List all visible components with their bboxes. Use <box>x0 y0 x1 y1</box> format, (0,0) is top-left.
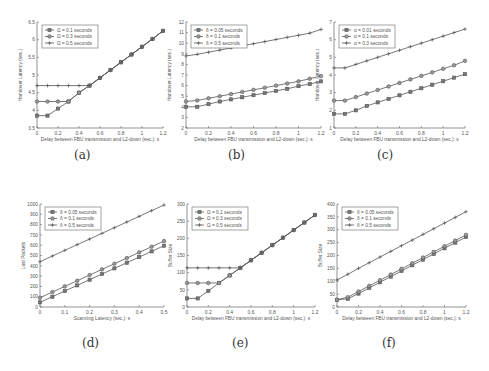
x-tick-label: 0.3 <box>111 309 118 315</box>
legend-entry: α = 0.01 seconds <box>354 28 391 33</box>
x-axis-label: Delay between FBU transmission and L2-do… <box>41 137 160 142</box>
y-tick-label: 100 <box>30 294 38 299</box>
x-tick-label: 0.4 <box>226 309 233 315</box>
caption-b: (b) <box>228 148 245 162</box>
y-tick-label: 0 <box>182 305 185 310</box>
plus-marker <box>38 260 42 264</box>
circle-marker <box>421 256 425 260</box>
plus-marker <box>195 53 199 57</box>
x-tick-label: 0 <box>36 130 39 136</box>
square-marker <box>348 210 351 213</box>
circle-marker <box>63 285 67 289</box>
x-tick-label: 0.4 <box>76 130 83 136</box>
plus-marker <box>77 84 81 88</box>
x-tick-label: 0 <box>39 309 42 315</box>
x-tick-label: 0.4 <box>377 309 384 315</box>
y-tick-label: 50 <box>330 292 336 297</box>
circle-marker <box>432 250 436 254</box>
circle-marker <box>137 251 141 255</box>
x-tick-label: 0 <box>186 309 189 315</box>
y-tick-label: 5.5 <box>28 55 35 60</box>
square-marker <box>332 112 335 115</box>
circle-marker <box>343 99 347 103</box>
legend: δ = 0.05 secondsδ = 0.1 secondsδ = 0.5 s… <box>342 207 398 230</box>
legend-entry: Ω = 0.3 seconds <box>57 34 93 39</box>
y-tick-label: 3.5 <box>28 126 35 131</box>
x-axis-label: Delay between FBU transmission and L2-do… <box>194 137 313 142</box>
x-tick-label: 1.2 <box>160 130 167 136</box>
x-tick-label: 0.4 <box>228 130 235 136</box>
square-marker <box>452 76 455 79</box>
y-tick-label: 10 <box>179 41 185 46</box>
x-tick-label: 1.2 <box>312 309 319 315</box>
chart-panel-a: 00.20.40.60.811.23.544.555.566.5Delay be… <box>18 20 167 142</box>
legend-entry: δ = 0.05 seconds <box>60 210 97 215</box>
square-marker <box>185 297 188 300</box>
legend-entry: δ = 0.1 seconds <box>60 216 95 221</box>
square-marker <box>197 28 200 31</box>
legend: α = 0.01 secondsα = 0.1 secondsα = 0.3 s… <box>339 25 395 48</box>
square-marker <box>263 91 266 94</box>
circle-marker <box>100 268 104 272</box>
legend: δ = 0.05 secondsδ = 0.1 secondsδ = 0.5 s… <box>45 207 101 230</box>
x-tick-label: 1.2 <box>463 309 470 315</box>
caption-f: (f) <box>382 336 396 350</box>
y-tick-label: 300 <box>327 227 335 232</box>
y-tick-label: 400 <box>327 202 335 207</box>
circle-marker <box>75 279 79 283</box>
x-tick-label: 1 <box>141 130 144 136</box>
legend-entry: Ω = 0.1 seconds <box>57 28 93 33</box>
circle-marker <box>409 78 413 82</box>
plus-marker <box>332 66 336 70</box>
y-tick-label: 7 <box>181 73 184 78</box>
circle-marker <box>162 239 166 243</box>
plus-marker <box>441 34 445 38</box>
circle-marker <box>443 244 447 248</box>
plus-marker <box>357 267 361 271</box>
square-marker <box>162 244 165 247</box>
y-axis-label: Lost Packets <box>21 241 26 269</box>
circle-marker <box>389 273 393 277</box>
square-marker <box>138 255 141 258</box>
plus-marker <box>297 33 301 37</box>
plus-marker <box>421 233 425 237</box>
square-marker <box>241 96 244 99</box>
square-marker <box>345 28 348 31</box>
circle-marker <box>297 80 301 84</box>
y-tick-label: 4 <box>329 73 332 78</box>
circle-marker <box>217 281 221 285</box>
x-axis-label: Delay between FBU transmission and L2-do… <box>342 316 461 321</box>
square-marker <box>252 94 255 97</box>
legend-entry: α = 0.1 seconds <box>354 34 389 39</box>
legend-entry: Ω = 0.5 seconds <box>207 223 243 228</box>
circle-marker <box>348 217 352 221</box>
circle-marker <box>464 233 468 237</box>
y-tick-label: 2 <box>329 108 332 113</box>
circle-marker <box>376 88 380 92</box>
y-tick-label: 700 <box>30 233 38 238</box>
square-marker <box>63 289 66 292</box>
y-tick-label: 200 <box>327 253 335 258</box>
y-tick-label: 9 <box>181 52 184 57</box>
square-marker <box>218 100 221 103</box>
plus-marker <box>218 48 222 52</box>
circle-marker <box>452 63 456 67</box>
y-axis-label: Buffer Size <box>318 243 323 267</box>
y-tick-label: 2 <box>181 126 184 131</box>
plus-marker <box>51 254 55 258</box>
circle-marker <box>463 59 467 63</box>
x-tick-label: 1.2 <box>318 130 325 136</box>
circle-marker <box>228 274 232 278</box>
circle-marker <box>367 284 371 288</box>
x-tick-label: 0.4 <box>374 130 381 136</box>
legend-entry: α = 0.3 seconds <box>354 41 389 46</box>
plus-marker <box>207 266 211 270</box>
y-tick-label: 150 <box>177 253 185 258</box>
y-tick-label: 200 <box>30 284 38 289</box>
circle-marker <box>88 273 92 277</box>
y-tick-label: 4 <box>181 105 184 110</box>
legend: Ω = 0.1 secondsΩ = 0.3 secondsΩ = 0.5 se… <box>192 207 248 230</box>
y-tick-label: 8 <box>181 62 184 67</box>
circle-marker <box>184 100 188 104</box>
y-tick-label: 4.5 <box>28 90 35 95</box>
